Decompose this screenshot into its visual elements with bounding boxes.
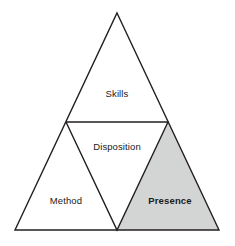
triangle-diagram-svg	[0, 0, 235, 246]
triangle-diagram: Skills Disposition Method Presence	[0, 0, 235, 246]
region-skills-shape	[66, 13, 168, 122]
